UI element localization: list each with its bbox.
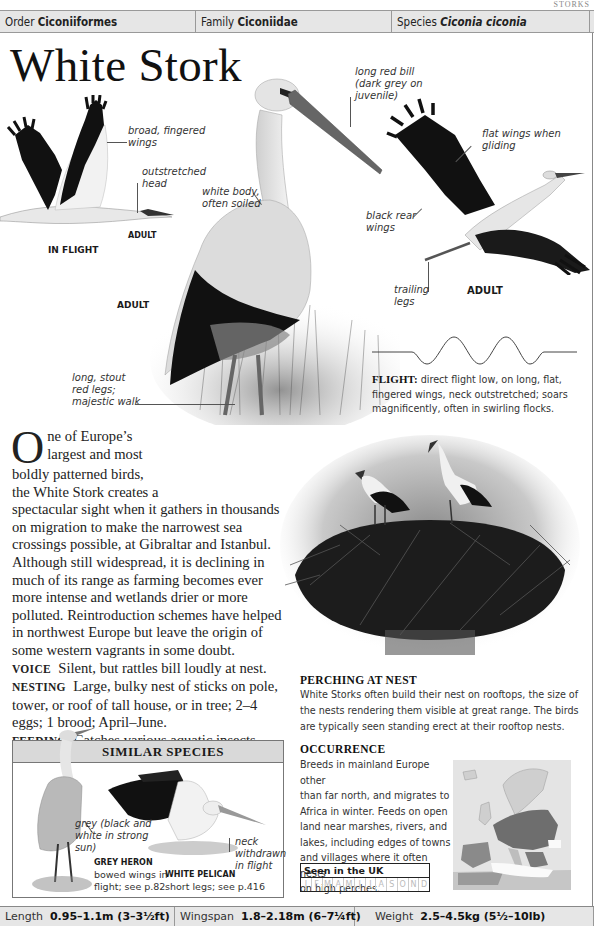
month-aug: A (376, 878, 387, 891)
month-oct: O (398, 878, 409, 891)
order-cell: Order Ciconiiformes (0, 11, 196, 32)
order-label: Order (5, 15, 34, 29)
month-jun: J (355, 878, 366, 891)
leader-line (107, 142, 127, 143)
standing-stork-illustration (140, 70, 400, 425)
length-label: Length (5, 910, 43, 923)
taxonomy-bar: Order Ciconiiformes Family Ciconiidae Sp… (0, 10, 594, 33)
label-white-body: white body,often soiled (202, 186, 261, 210)
grey-heron-illustration (20, 724, 100, 892)
label-pelican-neck: neckwithdrawnin flight (235, 836, 286, 872)
month-may: M (344, 878, 355, 891)
family-label: Family (201, 15, 234, 29)
flight-caption: FLIGHT: direct flight low, on long, flat… (372, 372, 587, 417)
measurements-bar: Length 0.95–1.1m (3–3½ft) Wingspan 1.8–2… (0, 906, 594, 926)
storks-on-nest-photo (280, 425, 580, 655)
label-long-stout-red-legs: long, stoutred legs;majestic walk (72, 372, 140, 408)
perching-heading: PERCHING AT NEST (300, 674, 417, 686)
similar-species-grey-heron: GREY HERON bowed wings in flight; see p.… (94, 857, 168, 893)
occurrence-heading: OCCURRENCE (300, 743, 385, 755)
month-apr: A (333, 878, 344, 891)
gliding-stork-illustration (385, 95, 594, 275)
flight-label: FLIGHT: (372, 373, 418, 385)
month-nov: N (409, 878, 420, 891)
weight-cell: Weight 2.5–4.5kg (5½–10lb) (355, 907, 594, 926)
length-cell: Length 0.95–1.1m (3–3½ft) (0, 907, 175, 926)
caption-adult-standing: ADULT (117, 300, 149, 310)
intro-paragraph: spectacular sight when it gathers in tho… (12, 501, 287, 659)
species-label: Species (397, 15, 437, 29)
month-jul: J (366, 878, 377, 891)
leader-line (137, 183, 138, 213)
seen-in-uk-title: Seen in the UK (301, 864, 429, 878)
weight-label: Weight (375, 910, 413, 923)
voice-section: VOICE Silent, but rattles bill loudly at… (12, 660, 287, 679)
leader-line (135, 404, 235, 405)
wingspan-label: Wingspan (180, 910, 234, 923)
month-jan: J (301, 878, 312, 891)
months-row: J F M A M J J A S O N D (301, 878, 429, 891)
caption-in-flight: IN FLIGHT (48, 245, 98, 255)
leader-line (229, 838, 230, 852)
similar-species-white-pelican: WHITE PELICAN short legs; see p.416 (165, 869, 265, 893)
label-flat-wings: flat wings whengliding (482, 128, 561, 152)
species-cell: Species Ciconia ciconia (392, 11, 590, 32)
range-map (453, 760, 571, 890)
wingspan-cell: Wingspan 1.8–2.18m (6–7¼ft) (175, 907, 355, 926)
month-sep: S (387, 878, 398, 891)
species-value: Ciconia ciconia (440, 15, 527, 29)
weight-value: 2.5–4.5kg (5½–10lb) (420, 910, 545, 923)
seen-in-uk-calendar: Seen in the UK J F M A M J J A S O N D (300, 863, 430, 892)
leader-line (350, 97, 351, 127)
flight-pattern-diagram (372, 332, 577, 367)
label-black-rear-wings: black rearwings (366, 210, 416, 234)
running-head: STORKS (553, 0, 590, 9)
wingspan-value: 1.8–2.18m (6–7¼ft) (241, 910, 361, 923)
perching-text: White Storks often build their nest on r… (300, 687, 585, 735)
length-value: 0.95–1.1m (3–3½ft) (50, 910, 170, 923)
caption-adult-gliding: ADULT (467, 285, 503, 296)
month-dec: D (419, 878, 429, 891)
family-value: Ciconiidae (237, 15, 297, 29)
month-feb: F (312, 878, 323, 891)
family-cell: Family Ciconiidae (196, 11, 392, 32)
drop-cap: O (11, 430, 44, 466)
month-mar: M (323, 878, 334, 891)
order-value: Ciconiiformes (38, 15, 118, 29)
label-heron-grey: grey (black andwhite in strongsun) (75, 818, 152, 854)
label-trailing-legs: trailinglegs (394, 284, 429, 308)
